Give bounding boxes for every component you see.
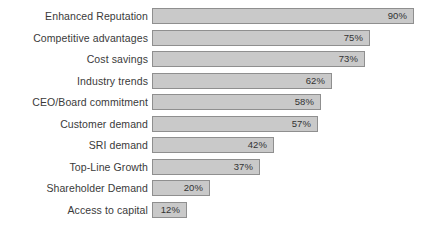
bar-row: Customer demand57% [0, 116, 435, 132]
bar-value-label: 62% [306, 73, 331, 89]
bar-track: 90% [152, 8, 414, 24]
bar-track: 58% [152, 94, 321, 110]
bar[interactable]: 20% [152, 180, 210, 196]
bar-track: 73% [152, 51, 365, 67]
bar-row: SRI demand42% [0, 137, 435, 153]
category-label: Customer demand [0, 116, 148, 132]
category-label: CEO/Board commitment [0, 94, 148, 110]
category-label: Top-Line Growth [0, 159, 148, 175]
bar[interactable]: 62% [152, 73, 332, 89]
bar[interactable]: 58% [152, 94, 321, 110]
bar-row: Shareholder Demand20% [0, 180, 435, 196]
bar[interactable]: 42% [152, 137, 274, 153]
bar-row: CEO/Board commitment58% [0, 94, 435, 110]
category-label: Cost savings [0, 51, 148, 67]
bar-row: Industry trends62% [0, 73, 435, 89]
category-label: Competitive advantages [0, 30, 148, 46]
bar-value-label: 37% [234, 159, 259, 175]
bar-value-label: 58% [295, 94, 320, 110]
bar[interactable]: 37% [152, 159, 260, 175]
category-label: Shareholder Demand [0, 180, 148, 196]
category-label: SRI demand [0, 137, 148, 153]
bar-track: 12% [152, 202, 187, 218]
bar[interactable]: 90% [152, 8, 414, 24]
bar-value-label: 42% [248, 137, 273, 153]
bar[interactable]: 73% [152, 51, 365, 67]
bar-track: 37% [152, 159, 260, 175]
bar-track: 75% [152, 30, 370, 46]
bar-row: Competitive advantages75% [0, 30, 435, 46]
bar[interactable]: 75% [152, 30, 370, 46]
bar-value-label: 75% [344, 30, 369, 46]
bar[interactable]: 57% [152, 116, 318, 132]
plot-area: Enhanced Reputation90%Competitive advant… [0, 0, 435, 228]
bar-value-label: 57% [292, 116, 317, 132]
bar-row: Cost savings73% [0, 51, 435, 67]
bar-track: 62% [152, 73, 332, 89]
bar-value-label: 90% [388, 8, 413, 24]
bar-chart: Enhanced Reputation90%Competitive advant… [0, 0, 435, 228]
bar-value-label: 20% [184, 180, 209, 196]
category-label: Enhanced Reputation [0, 8, 148, 24]
bar-row: Top-Line Growth37% [0, 159, 435, 175]
bar-row: Access to capital12% [0, 202, 435, 218]
bar-track: 20% [152, 180, 210, 196]
bar-value-label: 12% [161, 202, 186, 218]
bar-value-label: 73% [339, 51, 364, 67]
bar-track: 57% [152, 116, 318, 132]
bar[interactable]: 12% [152, 202, 187, 218]
bar-row: Enhanced Reputation90% [0, 8, 435, 24]
category-label: Access to capital [0, 202, 148, 218]
category-label: Industry trends [0, 73, 148, 89]
bar-track: 42% [152, 137, 274, 153]
